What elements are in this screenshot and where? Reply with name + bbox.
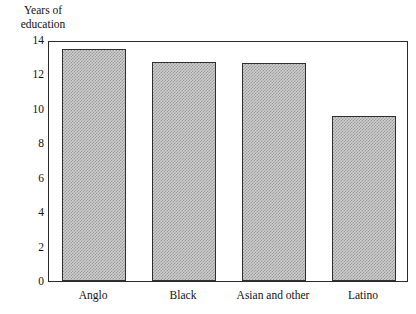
y-axis-tick-label: 10	[4, 104, 44, 116]
y-axis: 02468101214	[0, 0, 44, 314]
bar-anglo	[62, 49, 126, 281]
plot-area	[48, 41, 408, 282]
y-axis-tick-label: 4	[4, 207, 44, 219]
bar-black	[152, 62, 216, 281]
y-axis-tick-label: 12	[4, 70, 44, 82]
x-axis-tick-label: Asian and other	[237, 289, 310, 302]
x-axis-tick-label: Black	[170, 289, 197, 302]
bar-asian-and-other	[242, 63, 306, 281]
y-axis-tick-label: 6	[4, 173, 44, 185]
x-axis-tick-label: Latino	[348, 289, 378, 302]
y-axis-tick-label: 0	[4, 276, 44, 288]
x-axis-tick-label: Anglo	[79, 289, 108, 302]
y-axis-tick-label: 14	[4, 35, 44, 47]
y-axis-tick-label: 8	[4, 139, 44, 151]
y-axis-tick-label: 2	[4, 242, 44, 254]
bar-latino	[332, 116, 396, 281]
